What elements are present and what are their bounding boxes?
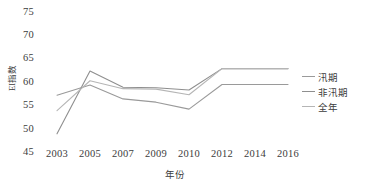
x-tick-label: 2007 [106,148,140,159]
x-tick-label: 2009 [139,148,173,159]
series-line [57,69,288,111]
legend-item-whole-year: 全年 [302,100,366,113]
legend-line-swatch [302,106,315,107]
series-line [57,84,288,109]
x-tick-label: 2014 [238,148,272,159]
legend-item-non-flood-season: 非汛期 [302,85,366,98]
x-tick-label: 2010 [172,148,206,159]
legend-item-label: 全年 [318,100,338,114]
legend-item-flood-season: 汛期 [302,70,366,83]
x-tick-label: 2012 [205,148,239,159]
legend-line-swatch [302,76,315,77]
legend-line-swatch [302,91,315,92]
legend-item-label: 汛期 [318,70,338,84]
x-tick-label: 2005 [73,148,107,159]
series-line [57,69,288,134]
x-axis-title: 年份 [110,167,240,181]
chart-legend: 汛期 非汛期 全年 [302,70,366,115]
legend-item-label: 非汛期 [318,85,348,99]
chart-container: 75 70 65 60 55 50 45 EI指数 2003 2005 2007… [0,0,369,196]
x-tick-label: 2003 [40,148,74,159]
x-tick-label: 2016 [271,148,305,159]
